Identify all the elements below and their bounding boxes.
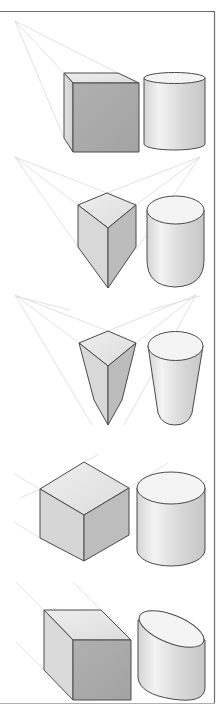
cylinder-isometric	[137, 472, 205, 566]
row-oblique	[16, 582, 209, 700]
row-three-point-steep	[15, 295, 203, 425]
cube-one-point	[64, 73, 139, 152]
cylinder-three-point-steep	[148, 332, 203, 426]
cube-three-point	[78, 193, 136, 288]
row-isometric	[14, 454, 205, 566]
cylinder-oblique	[134, 603, 208, 700]
cube-isometric	[40, 462, 129, 561]
cube-three-point-steep	[79, 331, 136, 425]
cylinder-one-point	[144, 73, 205, 151]
row-three-point-perspective	[15, 157, 204, 310]
row-one-point-perspective	[15, 21, 205, 152]
projection-diagram	[0, 0, 223, 709]
cylinder-three-point	[147, 196, 204, 287]
cube-oblique	[44, 610, 131, 700]
